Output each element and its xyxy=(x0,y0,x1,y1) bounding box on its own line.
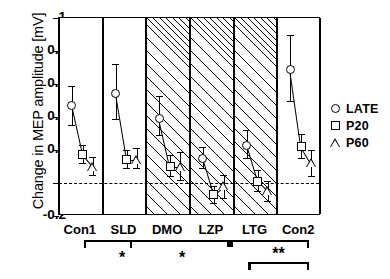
p60-ltg-errorbar-cap xyxy=(264,201,271,202)
late-dmo-errorbar-cap xyxy=(156,135,163,136)
p60-lzp-marker xyxy=(218,181,228,190)
p20-dmo-marker xyxy=(166,162,175,171)
late-lzp-marker xyxy=(198,154,207,163)
legend-label: LATE xyxy=(346,102,379,116)
significance-bracket-tick-sld xyxy=(130,240,132,248)
p20-sld-errorbar-cap xyxy=(123,168,130,169)
p20-con1-errorbar-cap xyxy=(79,163,86,164)
y-tick xyxy=(53,216,59,217)
p20-ltg-marker xyxy=(253,177,262,186)
p20-lzp-errorbar-cap xyxy=(210,186,217,187)
circle-icon xyxy=(327,104,343,113)
p20-con2-marker xyxy=(297,142,306,151)
legend: LATEP20P60 xyxy=(327,100,379,151)
p60-con2-errorbar-cap xyxy=(308,176,315,177)
significance-star-left: * xyxy=(92,250,152,266)
p60-dmo-marker xyxy=(175,162,185,171)
p60-sld-marker xyxy=(131,155,141,164)
late-lzp-errorbar-cap xyxy=(199,168,206,169)
p60-con1-errorbar-cap xyxy=(89,157,96,158)
late-sld-errorbar-cap xyxy=(112,64,119,65)
p20-lzp-marker xyxy=(209,190,218,199)
chart-figure: Change in MEP amplitude [mV] 10.80.60.40… xyxy=(0,0,390,279)
p60-dmo-errorbar-cap xyxy=(177,152,184,153)
p20-ltg-errorbar-cap xyxy=(254,191,261,192)
late-lzp-errorbar-cap xyxy=(199,147,206,148)
data-series-layer xyxy=(59,18,319,214)
p20-lzp-errorbar-cap xyxy=(210,203,217,204)
plot-area xyxy=(58,17,320,215)
p20-con2-errorbar-cap xyxy=(298,158,305,159)
legend-label: P60 xyxy=(346,136,369,150)
significance-star-double: ** xyxy=(248,246,309,262)
p20-sld-errorbar-cap xyxy=(123,150,130,151)
p20-con2-errorbar-cap xyxy=(298,134,305,135)
late-con1-marker xyxy=(67,101,76,110)
late-ltg-marker xyxy=(242,141,251,150)
late-ltg-errorbar-cap xyxy=(243,158,250,159)
x-label-con2: Con2 xyxy=(268,222,328,237)
p20-sld-marker xyxy=(122,155,131,164)
late-con1-errorbar-cap xyxy=(68,125,75,126)
legend-item-p20: P20 xyxy=(327,117,379,134)
square-icon xyxy=(327,121,343,130)
triangle-icon xyxy=(327,138,343,147)
late-ltg-errorbar-cap xyxy=(243,130,250,131)
late-sld-errorbar-cap xyxy=(112,119,119,120)
late-con2-errorbar-cap xyxy=(287,35,294,36)
p60-con2-errorbar-cap xyxy=(308,150,315,151)
p60-sld-errorbar-cap xyxy=(133,168,140,169)
significance-bracket-sub xyxy=(248,262,309,270)
legend-item-p60: P60 xyxy=(327,134,379,151)
p20-dmo-errorbar-cap xyxy=(167,155,174,156)
p20-con1-marker xyxy=(78,150,87,159)
late-dmo-errorbar-cap xyxy=(156,96,163,97)
legend-item-late: LATE xyxy=(327,100,379,117)
significance-marker-lzp xyxy=(227,240,233,247)
late-dmo-marker xyxy=(155,114,164,123)
late-sld-marker xyxy=(111,89,120,98)
p20-ltg-errorbar-cap xyxy=(254,170,261,171)
y-axis-title: Change in MEP amplitude [mV] xyxy=(30,1,46,221)
late-con1-errorbar-cap xyxy=(68,86,75,87)
p20-dmo-errorbar-cap xyxy=(167,176,174,177)
p60-con1-marker xyxy=(87,162,97,171)
p60-ltg-marker xyxy=(262,186,272,195)
p60-lzp-errorbar-cap xyxy=(220,198,227,199)
legend-label: P20 xyxy=(346,119,369,133)
significance-star-mid: * xyxy=(152,250,212,266)
p60-con1-errorbar-cap xyxy=(89,175,96,176)
p20-con1-errorbar-cap xyxy=(79,145,86,146)
late-con2-marker xyxy=(286,65,295,74)
p60-lzp-errorbar-cap xyxy=(220,175,227,176)
p60-con2-marker xyxy=(306,158,316,167)
late-con2-errorbar-cap xyxy=(287,101,294,102)
p60-dmo-errorbar-cap xyxy=(177,180,184,181)
p60-ltg-errorbar-cap xyxy=(264,181,271,182)
p60-sld-errorbar-cap xyxy=(133,148,140,149)
